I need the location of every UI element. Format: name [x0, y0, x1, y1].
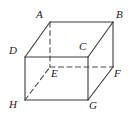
vertex-label-a: A [36, 9, 43, 20]
vertex-label-e: E [51, 68, 58, 79]
vertex-label-h: H [9, 99, 17, 110]
edge-g-f [88, 67, 113, 100]
edge-b-c [88, 22, 113, 57]
vertex-label-f: F [114, 68, 121, 79]
vertex-label-g: G [89, 100, 97, 111]
vertex-label-d: D [9, 45, 17, 56]
edge-a-d [25, 22, 50, 57]
edges-group [25, 22, 113, 100]
vertex-label-c: C [79, 41, 86, 52]
cuboid-svg [0, 0, 130, 120]
cuboid-figure: ABCDEFGH [0, 0, 130, 120]
vertex-label-b: B [116, 9, 123, 20]
edge-h-e-hidden [25, 67, 50, 100]
